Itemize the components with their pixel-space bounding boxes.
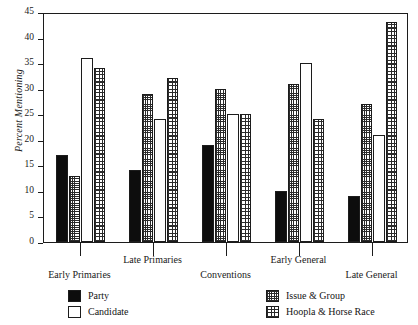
x-axis-label: Conventions — [166, 269, 286, 280]
legend-swatch — [68, 306, 81, 318]
legend-entry: Issue & Group — [266, 289, 345, 303]
y-axis-tick-label: 5 — [29, 210, 34, 220]
y-axis-tick-label: 0 — [29, 236, 34, 246]
y-axis-tick-label: 40 — [25, 32, 35, 42]
x-axis-label: Early General — [239, 254, 359, 265]
bar — [300, 63, 312, 242]
bar — [348, 196, 360, 242]
bar — [69, 176, 81, 242]
y-axis-tick-mark — [38, 243, 43, 244]
chart-legend: PartyCandidateIssue & GroupHoopla & Hors… — [68, 289, 398, 321]
x-axis-tick — [80, 243, 81, 256]
bar — [240, 114, 252, 242]
legend-label: Issue & Group — [286, 291, 345, 301]
bar — [275, 191, 287, 242]
bar — [202, 145, 214, 242]
x-axis-label: Late General — [312, 269, 418, 280]
legend-swatch — [266, 306, 279, 318]
bar — [56, 155, 68, 242]
bar — [142, 94, 154, 242]
legend-swatch — [68, 290, 81, 302]
legend-label: Candidate — [88, 307, 129, 317]
bar — [81, 58, 93, 242]
y-axis-tick-label: 30 — [25, 83, 35, 93]
x-axis-label: Late Primaries — [93, 254, 213, 265]
y-axis-tick-label: 10 — [25, 185, 35, 195]
bar — [167, 78, 179, 242]
bar — [361, 104, 373, 242]
y-axis-tick-label: 45 — [25, 6, 35, 16]
bar — [154, 119, 166, 242]
x-axis-label: Early Primaries — [20, 269, 140, 280]
legend-label: Party — [88, 291, 109, 301]
y-axis-tick-label: 15 — [25, 159, 35, 169]
bar — [227, 114, 239, 242]
legend-swatch — [266, 290, 279, 302]
bar — [288, 84, 300, 242]
plot-area — [43, 13, 408, 243]
y-axis-title: Percent Mentioning — [13, 41, 24, 181]
y-axis-tick-label: 35 — [25, 57, 35, 67]
bar — [129, 170, 141, 242]
legend-label: Hoopla & Horse Race — [286, 307, 375, 317]
bar — [94, 68, 106, 242]
x-axis-tick — [226, 243, 227, 256]
legend-entry: Party — [68, 289, 109, 303]
legend-entry: Candidate — [68, 305, 129, 319]
bar — [373, 135, 385, 242]
legend-entry: Hoopla & Horse Race — [266, 305, 375, 319]
x-axis-tick — [372, 243, 373, 256]
y-axis-tick-label: 20 — [25, 134, 35, 144]
y-axis-tick-label: 25 — [25, 108, 35, 118]
bar-chart-figure: Percent Mentioning 051015202530354045 Ea… — [0, 0, 418, 325]
bar — [215, 89, 227, 242]
bar — [386, 22, 398, 242]
bar — [313, 119, 325, 242]
